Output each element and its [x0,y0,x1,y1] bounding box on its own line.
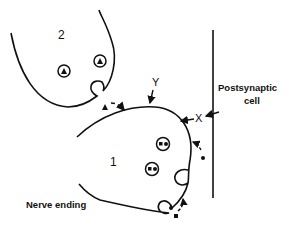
diagram-drawing [0,0,296,227]
y-pointer-arrow-icon [150,90,153,103]
nerve-ending-label: Nerve ending [26,200,86,210]
vesicle-double-square-icon [157,138,170,151]
site-x-label: X [195,113,202,124]
postsynaptic-label: Postsynaptic [218,83,277,93]
released-triangle-icon [102,104,108,110]
synapse-diagram: 2 1 Y X Postsynaptic cell Nerve ending [0,0,296,227]
vesicle-triangle-icon [58,65,70,77]
postsynaptic-cell-label: cell [244,96,260,106]
vesicle-double-square-icon [146,163,159,176]
site-y-label: Y [152,77,159,88]
terminal-2-outline [11,10,114,107]
transmitter-arrow-icon [111,103,124,110]
released-dot-icon [201,156,205,160]
terminal-1-label: 1 [110,156,117,168]
vesicle-triangle-icon [94,55,106,67]
release-arrow-icon [193,142,201,150]
terminal-2-label: 2 [58,29,65,41]
terminal-1-outline [77,107,191,214]
released-dot-icon [169,206,173,210]
released-square-icon [174,214,178,218]
x-pointer-arrow-icon [181,119,194,121]
